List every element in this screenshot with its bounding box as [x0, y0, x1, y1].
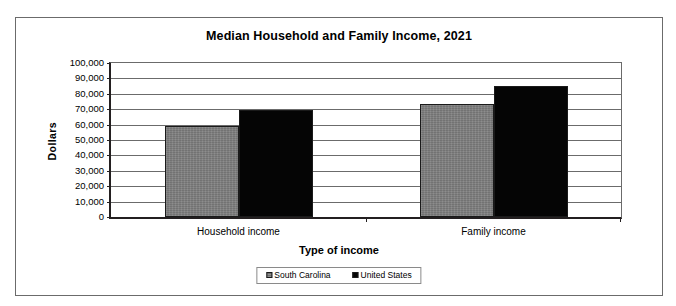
y-axis-tick [107, 171, 111, 172]
legend-label: United States [361, 271, 412, 280]
chart-legend: South CarolinaUnited States [256, 267, 421, 284]
bar [494, 86, 568, 217]
y-axis-tick [107, 186, 111, 187]
y-axis-tick-label: 50,000 [75, 135, 104, 145]
chart-frame: Median Household and Family Income, 2021… [15, 17, 663, 296]
x-axis-tick [366, 217, 367, 222]
y-axis-tick [107, 63, 111, 64]
y-axis-title: Dollars [46, 122, 60, 160]
x-axis-tick [620, 217, 621, 222]
gridline [111, 78, 621, 79]
y-axis-tick [107, 202, 111, 203]
bar [420, 104, 494, 217]
legend-swatch-icon [353, 272, 359, 278]
y-axis-tick-label: 90,000 [75, 74, 104, 84]
y-axis-tick [107, 94, 111, 95]
y-axis-tick-label: 60,000 [75, 120, 104, 130]
x-axis-category-label: Family income [461, 226, 525, 237]
legend-item[interactable]: United States [353, 271, 412, 280]
y-axis-tick-label: 70,000 [75, 104, 104, 114]
y-axis-tick [107, 78, 111, 79]
y-axis-tick [107, 155, 111, 156]
y-axis-tick [107, 125, 111, 126]
bar [239, 110, 313, 217]
y-axis-tick-label: 20,000 [75, 181, 104, 191]
legend-swatch-icon [266, 272, 272, 278]
x-axis-category-label: Household income [197, 226, 280, 237]
y-axis-tick-label: 0 [99, 212, 104, 222]
y-axis-tick-label: 30,000 [75, 166, 104, 176]
bar [165, 126, 239, 217]
y-axis-tick [107, 217, 111, 218]
y-axis-tick-label: 10,000 [75, 197, 104, 207]
chart-title: Median Household and Family Income, 2021 [16, 29, 662, 43]
x-axis-title: Type of income [16, 244, 662, 256]
y-axis-tick [107, 109, 111, 110]
y-axis-tick-label: 80,000 [75, 89, 104, 99]
y-axis-tick [107, 140, 111, 141]
legend-label: South Carolina [274, 271, 330, 280]
plot-area: 100,00090,00080,00070,00060,00050,00040,… [109, 62, 622, 219]
legend-item[interactable]: South Carolina [266, 271, 330, 280]
y-axis-tick-label: 40,000 [75, 151, 104, 161]
y-axis-tick-label: 100,000 [70, 58, 104, 68]
